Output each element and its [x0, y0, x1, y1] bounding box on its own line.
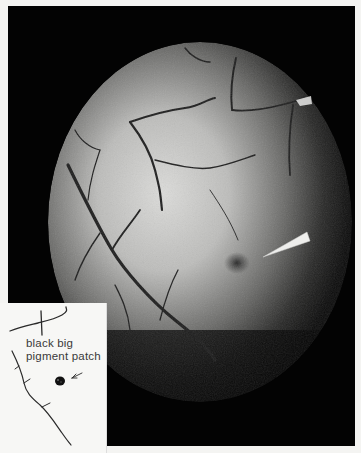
- inset-vessel-top: [10, 307, 67, 331]
- inset-pigment-patch: [55, 377, 65, 386]
- inset-label: black big pigment patch: [26, 337, 101, 363]
- inset-label-line2: pigment patch: [26, 350, 101, 363]
- inset-label-line1: black big: [26, 337, 101, 350]
- inset-vessel-main: [12, 351, 71, 445]
- inset-diagram: black big pigment patch: [0, 303, 107, 453]
- inset-vessel-stem: [41, 311, 42, 335]
- inset-sketch: [0, 303, 106, 453]
- inset-arrow: [72, 373, 82, 378]
